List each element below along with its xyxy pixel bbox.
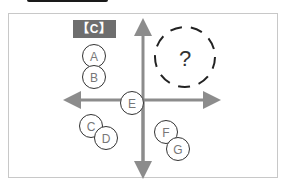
svg-text:G: G [173,143,182,157]
quadrant-diagram: ? ABCDEFG [0,0,285,189]
svg-text:C: C [87,120,96,134]
svg-text:D: D [102,132,111,146]
svg-text:B: B [90,71,98,85]
node-a: A [83,45,106,68]
node-b: B [83,66,106,89]
svg-text:F: F [162,126,169,140]
node-e: E [121,92,144,115]
node-g: G [167,138,190,161]
svg-text:E: E [128,97,136,111]
node-d: D [95,127,118,150]
svg-text:A: A [90,50,98,64]
svg-text:?: ? [179,46,191,71]
unknown-circle: ? [155,27,215,87]
